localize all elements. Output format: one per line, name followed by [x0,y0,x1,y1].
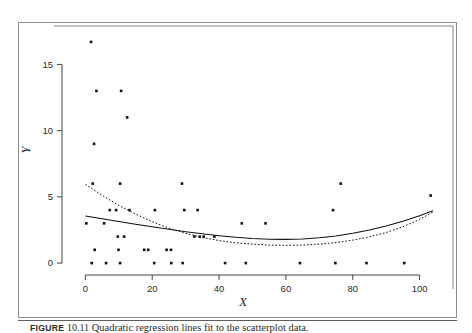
scatter-plot: 020406080100 051015 X Y [18,22,457,318]
x-axis-title: X [238,295,248,309]
data-point [181,182,184,185]
data-point [143,249,146,252]
axes-group: 020406080100 051015 [42,59,427,294]
data-point [103,222,106,225]
data-point [403,262,406,265]
data-point [170,249,173,252]
x-axis-ticks: 020406080100 [83,275,428,294]
data-point [128,209,131,212]
data-point [181,262,184,265]
data-point [95,90,98,93]
data-point [198,235,201,238]
x-tick-label: 60 [281,283,292,294]
caption-text: Quadratic regression lines fit to the sc… [92,322,309,333]
data-point [339,182,342,185]
data-point [91,182,94,185]
x-tick-label: 100 [412,283,428,294]
data-point [332,209,335,212]
data-point [245,262,248,265]
data-point [165,249,168,252]
y-tick-label: 0 [48,257,53,268]
figure-page: 020406080100 051015 X Y FIGURE 10.11 Qua… [0,0,472,333]
fit-curve-dashed [85,184,433,245]
data-point [105,262,108,265]
x-tick-label: 0 [83,283,88,294]
x-tick-label: 80 [347,283,358,294]
figure-caption: FIGURE 10.11 Quadratic regression lines … [30,322,450,333]
plot-panel-frame [54,26,453,289]
data-point [193,235,196,238]
data-point [116,235,119,238]
data-point [365,262,368,265]
y-tick-label: 5 [48,191,53,202]
data-point [119,262,122,265]
data-point [85,222,88,225]
data-point [213,235,216,238]
x-tick-label: 20 [147,283,158,294]
data-point [126,116,129,119]
data-point [154,209,157,212]
data-point [119,182,122,185]
data-point [153,262,156,265]
caption-number: 10.11 [67,322,89,333]
data-point [196,209,199,212]
data-point [123,235,126,238]
caption-rule [18,320,457,321]
data-point [147,249,150,252]
y-axis-title: Y [19,144,33,153]
caption-label: FIGURE [30,323,64,333]
data-point [170,262,173,265]
y-tick-label: 15 [42,59,53,70]
data-points [85,41,432,265]
data-point [93,143,96,146]
data-point [183,209,186,212]
data-point [224,262,227,265]
data-point [429,194,432,197]
y-tick-label: 10 [42,125,53,136]
data-point [115,209,118,212]
data-point [299,262,302,265]
y-axis-ticks: 051015 [42,59,62,269]
x-tick-label: 40 [214,283,225,294]
data-point [334,262,337,265]
data-point [117,249,120,252]
data-point [240,222,243,225]
data-point [202,235,205,238]
data-point [93,249,96,252]
data-point [90,41,93,44]
data-point [108,209,111,212]
data-point [120,90,123,93]
data-point [90,262,93,265]
data-point [264,222,267,225]
fit-curves [85,184,433,245]
